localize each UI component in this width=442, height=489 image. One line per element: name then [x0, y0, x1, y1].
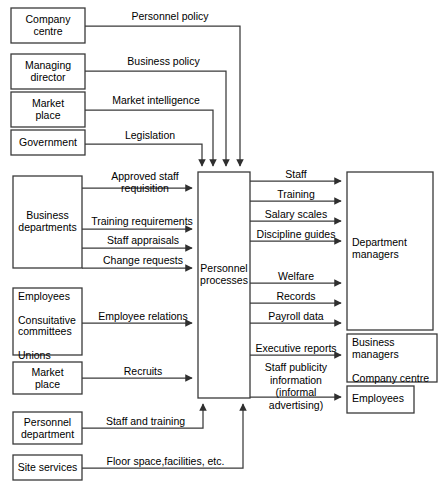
edge-legislation	[85, 144, 202, 166]
node-site-services[interactable]	[13, 455, 82, 480]
node-personnel-department[interactable]	[13, 412, 82, 444]
edges-right	[250, 181, 341, 397]
node-market-place-top[interactable]	[11, 92, 85, 127]
node-market-place-bottom[interactable]	[13, 362, 82, 394]
node-company-centre[interactable]	[11, 8, 85, 43]
node-employees-out[interactable]	[347, 386, 414, 413]
edge-personnel-policy	[85, 26, 240, 166]
node-business-managers[interactable]	[347, 334, 437, 382]
edges-left	[82, 188, 192, 378]
edge-business-policy	[85, 71, 226, 166]
node-government[interactable]	[11, 130, 85, 155]
node-employees-unions[interactable]	[13, 288, 82, 355]
edge-floor-space	[82, 404, 243, 468]
node-business-departments[interactable]	[13, 176, 82, 268]
diagram-edges-layer	[0, 0, 442, 489]
edge-market-intelligence	[85, 110, 213, 166]
diagram-canvas: Company centre Managing director Market …	[0, 0, 442, 489]
node-managing-director[interactable]	[11, 54, 85, 89]
node-personnel-processes[interactable]	[198, 172, 250, 398]
edges-bottom	[82, 404, 243, 468]
edge-staff-and-training	[82, 404, 203, 428]
node-department-managers[interactable]	[347, 172, 433, 330]
node-boxes	[11, 8, 437, 480]
edges-top	[85, 26, 240, 166]
